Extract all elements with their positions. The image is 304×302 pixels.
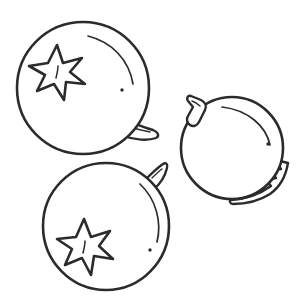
- drawing-canvas: [0, 0, 304, 302]
- speck-dot-bottom-left: [148, 248, 151, 251]
- fruit-body-top-left: [17, 22, 149, 154]
- speck-dot-right: [266, 142, 269, 145]
- fruit-illustration: [0, 0, 304, 302]
- speck-dot-top-left: [120, 88, 123, 91]
- fruit-bottom-left[interactable]: [43, 163, 169, 290]
- fruit-body-bottom-left: [43, 163, 169, 290]
